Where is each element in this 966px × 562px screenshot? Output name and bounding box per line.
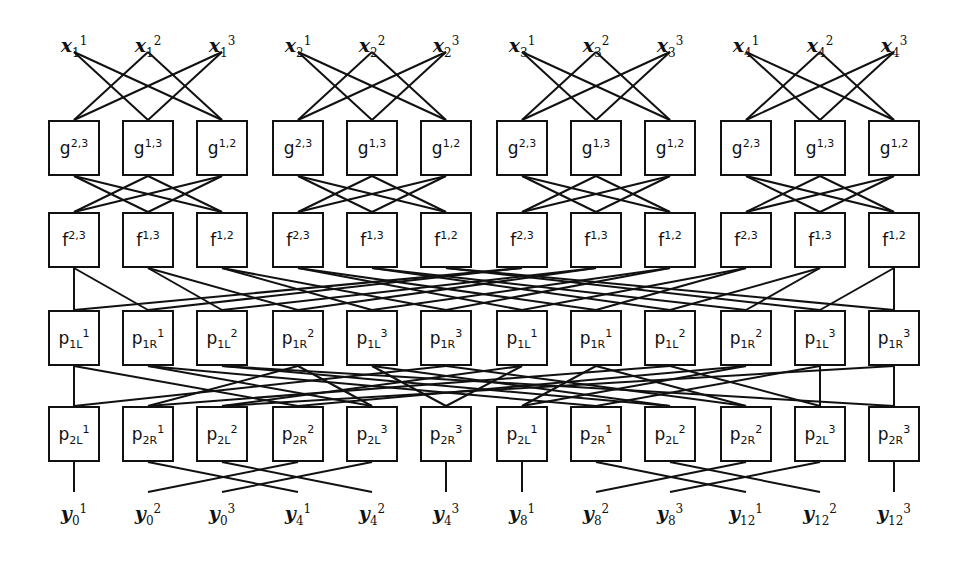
x-input-row-label-2: x13 xyxy=(209,36,236,55)
y-output-row-label-11: y123 xyxy=(877,504,911,523)
p1-node-row-label-5: p1R3 xyxy=(430,330,462,347)
p2-node-row-box-10: p2L3 xyxy=(794,406,846,462)
f-node-row-label-2: f1,2 xyxy=(210,232,234,249)
p2-node-row-box-11: p2R3 xyxy=(868,406,920,462)
f-node-row-box-4: f1,3 xyxy=(346,212,398,268)
p1-node-row-label-6: p1L1 xyxy=(507,330,538,347)
y-output-row-item-0: y01 xyxy=(48,500,100,526)
p1-node-row-label-2: p1L2 xyxy=(207,330,238,347)
p2-node-row-box-5: p2R3 xyxy=(420,406,472,462)
x-input-row-item-7: x32 xyxy=(570,32,622,58)
p2-node-row-box-1: p2R1 xyxy=(122,406,174,462)
f-node-row-label-7: f1,3 xyxy=(584,232,608,249)
g-node-row-box-2: g1,2 xyxy=(196,120,248,176)
p1-node-row-label-7: p1R1 xyxy=(580,330,612,347)
y-output-row-item-2: y03 xyxy=(196,500,248,526)
p1-node-row-label-9: p1R2 xyxy=(730,330,762,347)
x-input-row-item-9: x41 xyxy=(720,32,772,58)
f-node-row-label-8: f1,2 xyxy=(658,232,682,249)
p2-node-row-box-6: p2L1 xyxy=(496,406,548,462)
g-node-row-box-10: g1,3 xyxy=(794,120,846,176)
y-output-row-label-5: y43 xyxy=(433,504,459,523)
y-output-row-label-2: y03 xyxy=(209,504,235,523)
p2-node-row-label-3: p2R2 xyxy=(282,426,314,443)
x-input-row-label-9: x41 xyxy=(733,36,760,55)
f-node-row-box-10: f1,3 xyxy=(794,212,846,268)
f-node-row-label-1: f1,3 xyxy=(136,232,160,249)
p2-node-row-label-2: p2L2 xyxy=(207,426,238,443)
y-output-row-item-7: y82 xyxy=(570,500,622,526)
y-output-row-item-8: y83 xyxy=(644,500,696,526)
figure-canvas: x11x12x13x21x22x23x31x32x33x41x42x43g2,3… xyxy=(0,0,966,562)
p2-node-row-box-0: p2L1 xyxy=(48,406,100,462)
y-output-row-item-3: y41 xyxy=(272,500,324,526)
g-node-row-label-6: g2,3 xyxy=(508,140,536,157)
g-node-row-box-9: g2,3 xyxy=(720,120,772,176)
p1-node-row-box-7: p1R1 xyxy=(570,310,622,366)
y-output-row-item-9: y121 xyxy=(720,500,772,526)
y-output-row-label-6: y81 xyxy=(509,504,535,523)
p1-node-row-box-11: p1R3 xyxy=(868,310,920,366)
x-input-row-label-11: x43 xyxy=(881,36,908,55)
g-node-row-label-8: g1,2 xyxy=(656,140,684,157)
p2-node-row-label-8: p2L2 xyxy=(655,426,686,443)
wire-layer xyxy=(0,0,966,562)
x-input-row-item-3: x21 xyxy=(272,32,324,58)
x-input-row-item-6: x31 xyxy=(496,32,548,58)
y-output-row-label-0: y01 xyxy=(61,504,87,523)
g-node-row-label-10: g1,3 xyxy=(806,140,834,157)
g-node-row-label-11: g1,2 xyxy=(880,140,908,157)
p1-node-row-label-3: p1R2 xyxy=(282,330,314,347)
g-node-row-label-4: g1,3 xyxy=(358,140,386,157)
f-node-row-box-2: f1,2 xyxy=(196,212,248,268)
f-node-row-label-4: f1,3 xyxy=(360,232,384,249)
y-output-row-item-5: y43 xyxy=(420,500,472,526)
x-input-row-item-5: x23 xyxy=(420,32,472,58)
p1-node-row-box-0: p1L1 xyxy=(48,310,100,366)
f-node-row-box-6: f2,3 xyxy=(496,212,548,268)
x-input-row-label-3: x21 xyxy=(285,36,312,55)
x-input-row-label-1: x12 xyxy=(135,36,162,55)
g-node-row-label-1: g1,3 xyxy=(134,140,162,157)
f-node-row-box-0: f2,3 xyxy=(48,212,100,268)
g-node-row-box-6: g2,3 xyxy=(496,120,548,176)
x-input-row-label-8: x33 xyxy=(657,36,684,55)
g-node-row-box-8: g1,2 xyxy=(644,120,696,176)
p2-node-row-label-11: p2R3 xyxy=(878,426,910,443)
p1-node-row-label-4: p1L3 xyxy=(357,330,388,347)
g-node-row-box-5: g1,2 xyxy=(420,120,472,176)
p2-node-row-label-7: p2R1 xyxy=(580,426,612,443)
p2-node-row-box-4: p2L3 xyxy=(346,406,398,462)
g-node-row-label-9: g2,3 xyxy=(732,140,760,157)
x-input-row-label-10: x42 xyxy=(807,36,834,55)
y-output-row-label-1: y02 xyxy=(135,504,161,523)
g-node-row-label-2: g1,2 xyxy=(208,140,236,157)
p2-node-row-box-2: p2L2 xyxy=(196,406,248,462)
x-input-row-label-6: x31 xyxy=(509,36,536,55)
x-input-row-item-0: x11 xyxy=(48,32,100,58)
x-input-row-item-1: x12 xyxy=(122,32,174,58)
g-node-row-box-11: g1,2 xyxy=(868,120,920,176)
g-node-row-label-7: g1,3 xyxy=(582,140,610,157)
f-node-row-box-5: f1,2 xyxy=(420,212,472,268)
p1-node-row-box-6: p1L1 xyxy=(496,310,548,366)
p2-node-row-label-6: p2L1 xyxy=(507,426,538,443)
g-node-row-box-0: g2,3 xyxy=(48,120,100,176)
y-output-row-label-3: y41 xyxy=(285,504,311,523)
y-output-row-item-10: y122 xyxy=(794,500,846,526)
p2-node-row-box-7: p2R1 xyxy=(570,406,622,462)
x-input-row-label-5: x23 xyxy=(433,36,460,55)
g-node-row-box-3: g2,3 xyxy=(272,120,324,176)
p1-node-row-label-8: p1L2 xyxy=(655,330,686,347)
g-node-row-label-3: g2,3 xyxy=(284,140,312,157)
p1-node-row-label-0: p1L1 xyxy=(59,330,90,347)
y-output-row-label-9: y121 xyxy=(729,504,763,523)
y-output-row-label-8: y83 xyxy=(657,504,683,523)
x-input-row-item-10: x42 xyxy=(794,32,846,58)
y-output-row-item-6: y81 xyxy=(496,500,548,526)
p1-node-row-label-11: p1R3 xyxy=(878,330,910,347)
p1-node-row-box-4: p1L3 xyxy=(346,310,398,366)
g-node-row-box-7: g1,3 xyxy=(570,120,622,176)
f-node-row-box-9: f2,3 xyxy=(720,212,772,268)
g-node-row-label-5: g1,2 xyxy=(432,140,460,157)
